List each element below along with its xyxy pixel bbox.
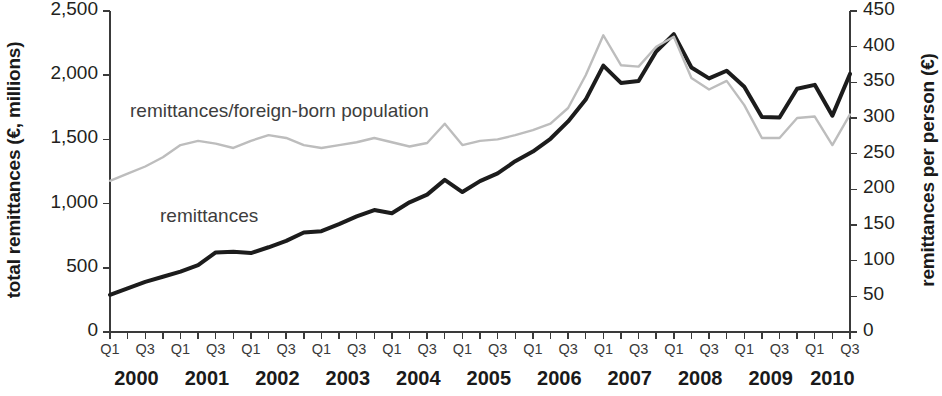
y-tick-label-left: 1,500 xyxy=(14,126,98,148)
y-tick-label-right: 150 xyxy=(863,212,923,234)
x-tick-label-quarter: Q3 xyxy=(828,341,872,357)
y-tick-label-left: 1,000 xyxy=(14,191,98,213)
x-tick-label-year: 2001 xyxy=(167,367,247,390)
x-tick-label-year: 2000 xyxy=(96,367,176,390)
y-tick-label-right: 0 xyxy=(863,319,923,341)
y-tick-label-right: 200 xyxy=(863,176,923,198)
remittances-chart-figure: total remittances (€, millions) remittan… xyxy=(0,0,942,396)
y-tick-label-right: 450 xyxy=(863,0,923,20)
y-tick-label-right: 350 xyxy=(863,69,923,91)
y-tick-label-left: 2,500 xyxy=(14,0,98,20)
y-tick-label-right: 300 xyxy=(863,105,923,127)
x-tick-label-year: 2003 xyxy=(308,367,388,390)
x-tick-label-year: 2002 xyxy=(237,367,317,390)
axes-group xyxy=(103,11,857,339)
y-tick-label-right: 50 xyxy=(863,283,923,305)
x-tick-label-year: 2010 xyxy=(792,367,872,390)
x-tick-label-year: 2007 xyxy=(590,367,670,390)
series-annotation-remittances: remittances xyxy=(160,205,258,227)
series-annotation-per-person: remittances/foreign-born population xyxy=(130,100,429,122)
series-group xyxy=(110,34,850,295)
x-tick-label-year: 2006 xyxy=(519,367,599,390)
y-tick-label-left: 0 xyxy=(14,319,98,341)
y-tick-label-right: 100 xyxy=(863,248,923,270)
y-tick-label-left: 500 xyxy=(14,255,98,277)
series-line-remittances xyxy=(110,34,850,295)
plot-area xyxy=(0,0,942,396)
x-tick-label-year: 2005 xyxy=(449,367,529,390)
x-tick-label-year: 2008 xyxy=(660,367,740,390)
y-tick-label-right: 250 xyxy=(863,141,923,163)
y-tick-label-right: 400 xyxy=(863,34,923,56)
y-tick-label-left: 2,000 xyxy=(14,62,98,84)
x-tick-label-year: 2004 xyxy=(378,367,458,390)
